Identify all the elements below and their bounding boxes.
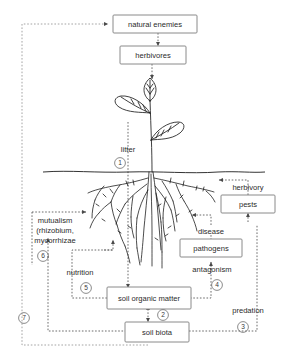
soil-surface-line — [43, 171, 265, 172]
box-pathogens-label: pathogens — [193, 244, 229, 253]
callout-4: 4 — [212, 280, 223, 291]
label-herbivory: herbivory — [232, 183, 263, 192]
box-natural-enemies-label: natural enemies — [128, 20, 182, 29]
svg-text:6: 6 — [41, 252, 45, 259]
label-mutualism-line2: (rhizobium, — [36, 226, 74, 235]
edge-nutrition-arrow — [104, 240, 113, 250]
svg-text:2: 2 — [161, 311, 165, 318]
label-litter: litter — [121, 145, 136, 154]
label-predation: predation — [232, 306, 264, 315]
svg-text:3: 3 — [241, 323, 245, 330]
box-soil-organic-matter-label: soil organic matter — [118, 294, 181, 303]
label-mutualism-line1: mutualism — [38, 216, 73, 225]
box-soil-biota-label: soil biota — [142, 328, 173, 337]
callout-6: 6 — [38, 251, 49, 262]
box-pests-label: pests — [239, 200, 257, 209]
svg-text:5: 5 — [84, 284, 88, 291]
callout-5: 5 — [81, 283, 92, 294]
label-mutualism-line3: mycorrhizae — [34, 236, 75, 245]
label-nutrition: nutrition — [66, 268, 93, 277]
callout-2: 2 — [158, 310, 169, 321]
diagram-canvas: natural enemies herbivores pests pathoge… — [0, 0, 288, 361]
plant-shoot — [115, 78, 184, 172]
box-herbivores-label: herbivores — [135, 51, 171, 60]
label-antagonism: antagonism — [192, 265, 231, 274]
svg-text:4: 4 — [215, 281, 219, 288]
label-disease: disease — [198, 227, 224, 236]
svg-text:7: 7 — [22, 314, 26, 321]
callout-1: 1 — [115, 158, 126, 169]
callout-7: 7 — [19, 313, 30, 324]
soil-plant-diagram: natural enemies herbivores pests pathoge… — [0, 0, 288, 361]
svg-text:1: 1 — [118, 159, 122, 166]
